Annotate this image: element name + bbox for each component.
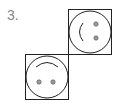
eye-icon [94,36,98,40]
bottom-left-face [26,55,69,100]
mouth-icon [36,63,58,68]
faces-diagram [0,0,115,104]
top-right-face [69,10,112,55]
eye-icon [51,80,55,84]
mouth-icon [80,23,84,41]
eye-icon [94,22,98,26]
eye-icon [37,80,41,84]
